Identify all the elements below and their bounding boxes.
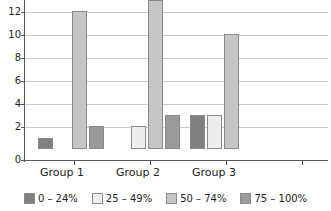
bar-group-2-series-3 [165, 115, 180, 150]
legend-item-25-49: 25 – 49% [92, 193, 152, 204]
group-label-3: Group 3 [176, 166, 252, 179]
bar-group-1-series-0 [38, 138, 53, 150]
legend-label-75-100: 75 – 100% [254, 193, 307, 204]
y-axis-label-8: 8 [0, 53, 21, 63]
y-axis-label-6: 6 [0, 76, 21, 86]
bars-layer [24, 0, 328, 161]
legend-item-50-74: 50 – 74% [166, 193, 226, 204]
bar-group-3-series-0 [190, 115, 205, 150]
bar-group-2-series-2 [148, 0, 163, 149]
x-tick-2 [226, 161, 227, 165]
legend-swatch-icon-25-49 [92, 193, 103, 204]
bar-group-2-series-1 [131, 126, 146, 149]
bar-group-1-series-3 [89, 126, 104, 149]
y-axis-label-4: 4 [0, 99, 21, 109]
bar-group-3-series-2 [224, 34, 239, 149]
x-tick-3 [302, 161, 303, 165]
legend-label-25-49: 25 – 49% [106, 193, 152, 204]
legend-item-75-100: 75 – 100% [240, 193, 307, 204]
y-axis-label-12: 12 [0, 7, 21, 17]
x-axis-line [24, 160, 328, 161]
bar-group-3-series-1 [207, 115, 222, 150]
y-axis-label-0: 0 [0, 155, 21, 165]
x-tick-0 [74, 161, 75, 165]
legend-label-0-24: 0 – 24% [38, 193, 78, 204]
chart-legend: 0 – 24% 25 – 49% 50 – 74% 75 – 100% [0, 190, 331, 206]
legend-swatch-icon-75-100 [240, 193, 251, 204]
legend-item-0-24: 0 – 24% [24, 193, 78, 204]
y-axis-label-10: 10 [0, 30, 21, 40]
legend-label-50-74: 50 – 74% [180, 193, 226, 204]
group-label-2: Group 2 [100, 166, 176, 179]
y-axis-label-2: 2 [0, 122, 21, 132]
x-tick-1 [150, 161, 151, 165]
y-axis-labels: 12 10 8 6 4 2 0 [0, 0, 21, 162]
bar-chart: 12 10 8 6 4 2 0 Group 1 Group 2 Group 3 … [0, 0, 331, 211]
legend-swatch-icon-0-24 [24, 193, 35, 204]
group-label-1: Group 1 [24, 166, 100, 179]
legend-swatch-icon-50-74 [166, 193, 177, 204]
x-axis-group-labels: Group 1 Group 2 Group 3 [24, 166, 328, 180]
bar-group-1-series-2 [72, 11, 87, 149]
